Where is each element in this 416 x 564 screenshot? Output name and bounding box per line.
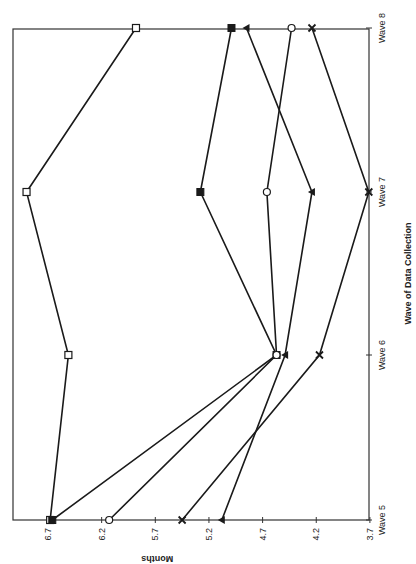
wave-axis-title: Wave of Data Collection	[403, 222, 413, 324]
filled-triangle-marker	[218, 516, 225, 524]
filled-square-marker	[49, 517, 56, 524]
series-filled-square	[49, 25, 280, 524]
filled-square-marker	[197, 189, 204, 196]
series-open-circle	[106, 25, 295, 524]
open-square-marker	[23, 189, 30, 196]
months-tick-label: 5.7	[150, 528, 160, 541]
months-tick-label: 4.7	[258, 528, 268, 541]
open-square-marker	[132, 25, 139, 32]
months-tick-label: 6.7	[43, 528, 53, 541]
filled-triangle-marker	[243, 24, 250, 32]
series-filled-triangle	[218, 24, 315, 524]
months-tick-label: 5.2	[204, 528, 214, 541]
open-circle-marker	[273, 352, 280, 359]
wave-tick-label: Wave 7	[377, 177, 387, 207]
series-open-square	[23, 25, 139, 524]
wave-tick-label: Wave 6	[377, 340, 387, 370]
months-tick-label: 6.2	[97, 528, 107, 541]
open-circle-marker	[288, 25, 295, 32]
open-square-marker	[65, 352, 72, 359]
series-lines	[23, 24, 372, 524]
wave-tick-label: Wave 8	[377, 13, 387, 43]
plot-frame	[13, 29, 369, 520]
open-circle-marker	[263, 189, 270, 196]
months-axis-title: Months	[141, 554, 173, 564]
x-mark-marker	[308, 25, 315, 32]
wave-tick-label: Wave 5	[377, 505, 387, 535]
months-tick-label: 4.2	[311, 528, 321, 541]
filled-square-marker	[228, 25, 235, 32]
months-tick-label: 3.7	[365, 528, 375, 541]
open-circle-marker	[106, 517, 113, 524]
line-chart: 6.76.25.75.24.74.23.7 Wave 5Wave 6Wave 7…	[0, 0, 416, 564]
